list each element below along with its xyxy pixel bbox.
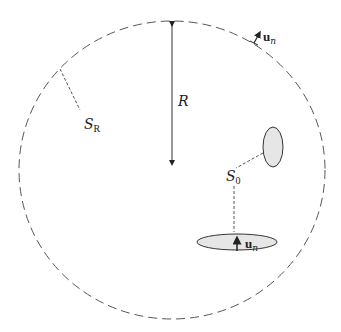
s0-leader-upper — [236, 153, 263, 168]
outer-normal-tick — [250, 41, 258, 45]
sr-leader-line — [60, 69, 80, 110]
outer-normal-arrow — [254, 34, 259, 43]
sr-label: SR — [84, 116, 101, 134]
radius-label: R — [177, 93, 189, 109]
outer-normal-label: un — [263, 29, 276, 46]
diagram-canvas: R SR un S0 un — [0, 0, 341, 332]
s0-label: S0 — [226, 168, 241, 186]
inner-body-small — [263, 127, 283, 167]
